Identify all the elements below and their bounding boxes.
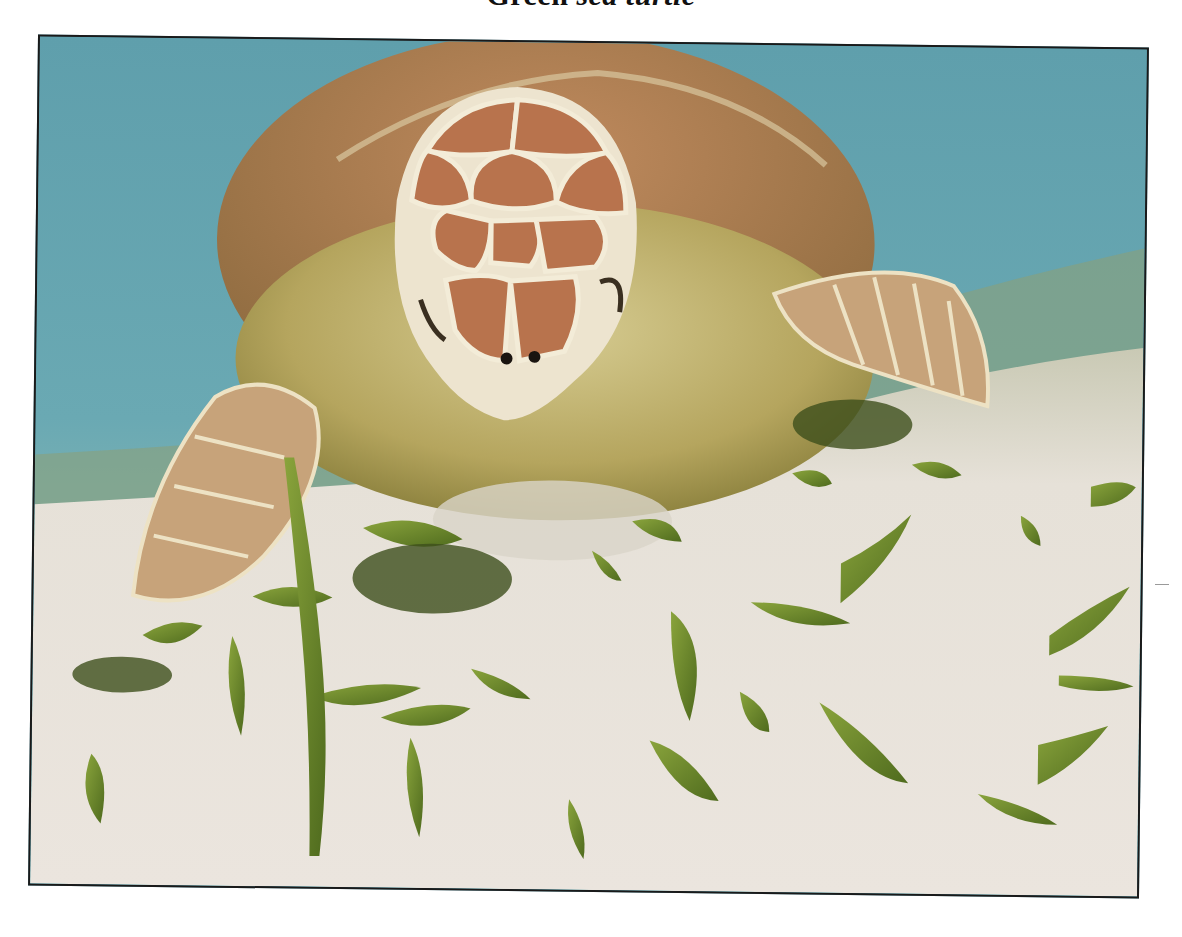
caption-text-italic: sea turtle bbox=[576, 0, 695, 11]
figure-caption: Green sea turtle bbox=[0, 0, 1182, 12]
caption-text-regular: Green bbox=[486, 0, 576, 11]
margin-mark bbox=[1155, 584, 1169, 585]
turtle-photo-illustration bbox=[30, 37, 1147, 897]
turtle-photo bbox=[28, 35, 1149, 899]
